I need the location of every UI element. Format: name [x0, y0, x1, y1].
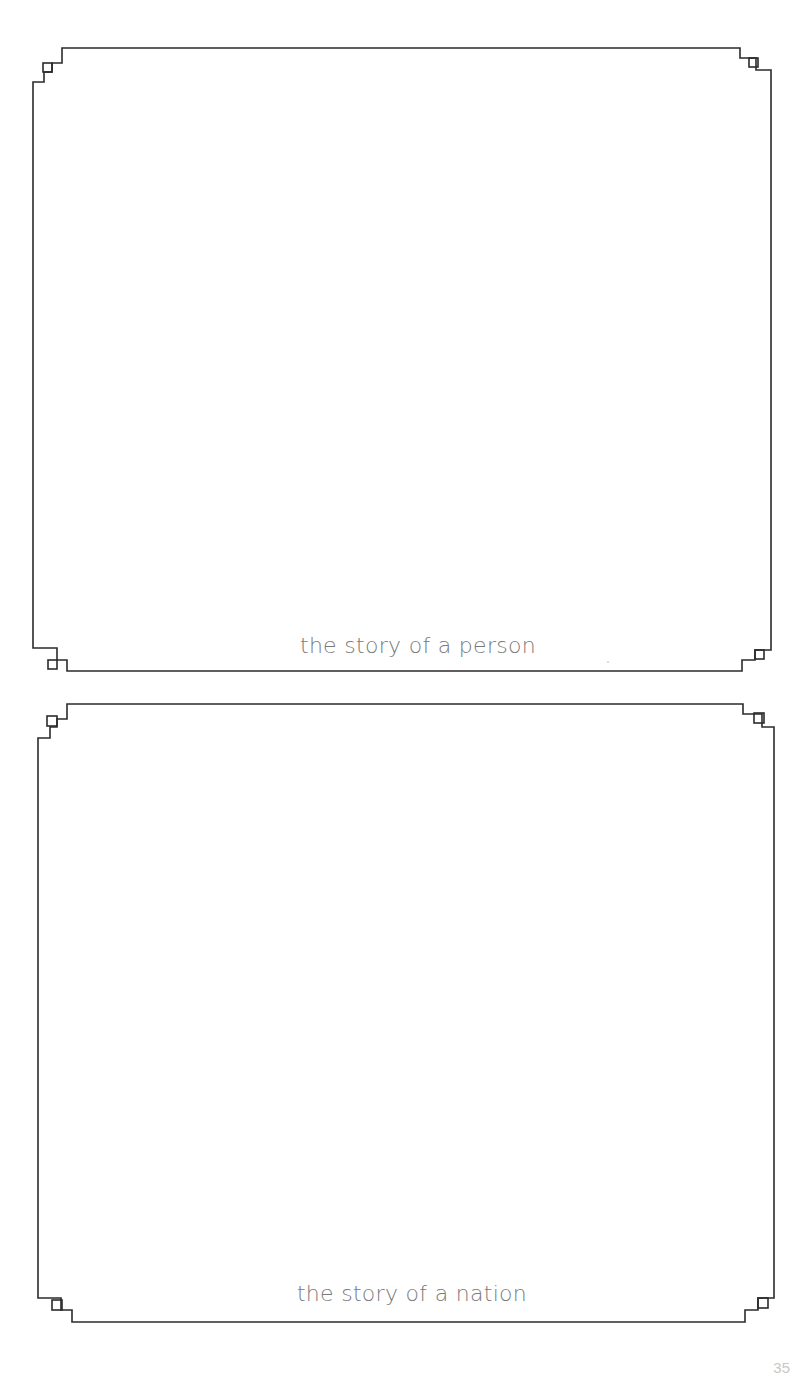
frame-2-border	[38, 704, 774, 1322]
frame-1-caption: the story of a person	[300, 633, 536, 658]
corner-square-icon	[755, 650, 764, 659]
frame-2-caption: the story of a nation	[297, 1281, 527, 1306]
corner-square-icon	[43, 63, 52, 72]
corner-square-icon	[47, 716, 57, 726]
corner-square-icon	[758, 1298, 768, 1308]
corner-square-icon	[48, 660, 57, 669]
page-number: 35	[773, 1359, 790, 1376]
paper-speck	[607, 661, 609, 663]
frame-1-border	[33, 48, 771, 671]
